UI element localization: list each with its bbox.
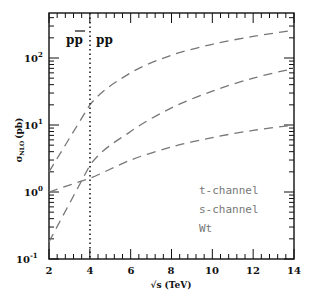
ytick1: 101 — [24, 117, 43, 131]
xtick-12: 12 — [246, 265, 260, 276]
curve-t-channel — [49, 30, 294, 172]
legend: t-channel s-channel Wt — [199, 184, 259, 235]
y-axis-label: σNLO(pb) — [14, 118, 25, 163]
xtick-8: 8 — [168, 265, 175, 276]
xtick-10: 10 — [205, 265, 219, 276]
legend-wt: Wt — [199, 222, 212, 235]
x-axis-label: √s (TeV) — [150, 280, 191, 290]
xtick-2: 2 — [46, 265, 53, 276]
ytick-1: 10-1 — [16, 251, 38, 265]
legend-s-channel: s-channel — [199, 203, 259, 216]
legend-t-channel: t-channel — [199, 184, 259, 197]
ytick2: 102 — [24, 50, 43, 64]
chart-svg: pp pp 10-1 100 101 102 2 4 6 8 10 12 14 … — [0, 0, 309, 297]
xtick-14: 14 — [287, 265, 301, 276]
svg-text:σNLO(pb): σNLO(pb) — [14, 118, 25, 163]
xtick-4: 4 — [87, 265, 94, 276]
curve-wt — [49, 125, 294, 192]
xtick-6: 6 — [128, 265, 135, 276]
plot-frame — [49, 13, 294, 259]
x-tick-labels: 2 4 6 8 10 12 14 — [46, 265, 301, 276]
axis-ticks — [49, 13, 294, 259]
pp-label: pp — [96, 33, 113, 47]
ytick0: 100 — [24, 184, 43, 198]
ppbar-label: pp — [66, 33, 83, 47]
